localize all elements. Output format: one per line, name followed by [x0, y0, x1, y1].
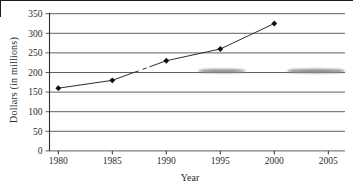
y-tick-label-100: 100	[28, 107, 43, 117]
scan-edge-top	[0, 0, 353, 1]
plot-canvas: 0501001502002503003501980198519901995200…	[0, 0, 353, 193]
y-tick-label-300: 300	[28, 29, 43, 39]
scan-artifact-0	[198, 69, 246, 73]
y-tick-label-50: 50	[33, 127, 43, 137]
data-point-marker-1980	[55, 85, 61, 91]
x-tick-label-1980: 1980	[49, 156, 68, 166]
y-tick-label-150: 150	[28, 87, 43, 97]
y-tick-label-0: 0	[38, 146, 43, 156]
data-point-marker-2000	[271, 21, 277, 27]
x-tick-label-1985: 1985	[103, 156, 122, 166]
x-tick-label-2005: 2005	[319, 156, 338, 166]
x-tick-label-1990: 1990	[157, 156, 176, 166]
line-chart-figure: 0501001502002503003501980198519901995200…	[0, 0, 353, 193]
y-tick-label-350: 350	[28, 9, 43, 19]
y-axis-title: Dollars (in millions)	[8, 37, 19, 123]
data-point-marker-1995	[217, 46, 223, 52]
data-point-marker-1985	[109, 77, 115, 83]
scan-artifact-1	[287, 69, 345, 74]
x-tick-label-2000: 2000	[265, 156, 284, 166]
print-gap-1	[147, 65, 150, 68]
print-gap-0	[139, 68, 143, 71]
y-tick-label-200: 200	[28, 68, 43, 78]
x-axis-title: Year	[181, 172, 199, 183]
x-tick-label-1995: 1995	[211, 156, 230, 166]
data-point-marker-1990	[163, 58, 169, 64]
scan-edge-left	[0, 0, 1, 17]
y-tick-label-250: 250	[28, 48, 43, 58]
